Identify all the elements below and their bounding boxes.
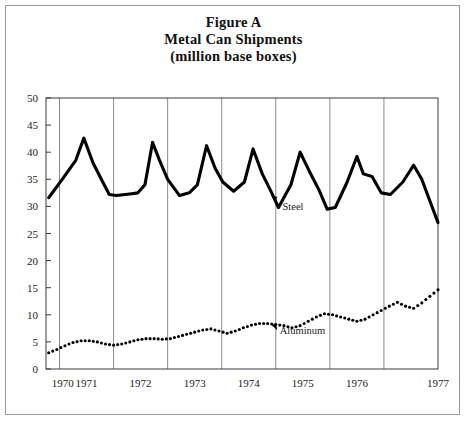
steel-series-line — [49, 138, 438, 223]
y-axis-tick-label: 0 — [33, 363, 39, 375]
gridlines — [60, 98, 384, 369]
figure-border: Figure A Metal Can Shipments (million ba… — [5, 5, 460, 415]
x-axis-tick-label: 1976 — [346, 377, 369, 389]
x-axis-ticks: 19701971197219731974197519761977 — [52, 377, 450, 389]
y-axis-tick-label: 30 — [27, 200, 39, 212]
y-axis-tick-label: 40 — [27, 146, 39, 158]
x-axis-tick-label: 1970 — [52, 377, 75, 389]
x-axis-tick-label: 1972 — [130, 377, 152, 389]
x-axis-tick-label: 1971 — [76, 377, 98, 389]
y-axis-tick-label: 35 — [27, 173, 39, 185]
x-axis-tick-label: 1975 — [292, 377, 315, 389]
y-axis-tick-label: 5 — [33, 336, 39, 348]
series-annotations: SteelAluminum — [271, 195, 325, 336]
y-axis-tick-label: 45 — [27, 119, 39, 131]
x-axis-tick-label: 1974 — [238, 377, 261, 389]
annotation-label-aluminum: Aluminum — [280, 325, 326, 336]
y-axis-tick-label: 20 — [27, 255, 39, 267]
y-axis-tick-label: 10 — [27, 309, 39, 321]
aluminum-series-dots — [47, 288, 439, 354]
x-axis-tick-label: 1973 — [184, 377, 207, 389]
y-axis-ticks: 05101520253035404550 — [27, 92, 51, 375]
x-axis-tick-label: 1977 — [427, 377, 450, 389]
annotation-label-steel: Steel — [282, 201, 303, 212]
y-axis-tick-label: 50 — [27, 92, 39, 104]
metal-can-shipments-chart: 05101520253035404550 1970197119721973197… — [6, 6, 461, 416]
y-axis-tick-label: 25 — [27, 228, 39, 240]
y-axis-tick-label: 15 — [27, 282, 39, 294]
chart-plot-area: 05101520253035404550 1970197119721973197… — [6, 6, 461, 416]
